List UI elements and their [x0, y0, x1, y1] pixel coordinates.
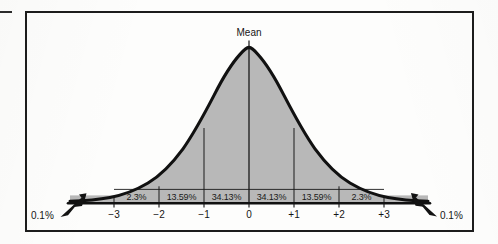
x-tick-label-plus-2: +2: [333, 210, 344, 220]
x-tick-label-minus-1: −1: [198, 210, 209, 220]
x-tick-label-zero: 0: [246, 210, 252, 220]
x-tick-label-minus-3: −3: [108, 210, 119, 220]
band-label-zero-to-plus-1: 34.13%: [257, 192, 287, 201]
x-tick-label-plus-1: +1: [288, 210, 299, 220]
band-label-plus-2-to-plus-3: 2.3%: [352, 192, 372, 201]
x-tick-label-minus-2: −2: [153, 210, 164, 220]
band-label-minus-1-to-zero: 34.13%: [212, 192, 242, 201]
figure-normal-distribution: Mean 2.3% 13.59% 34.13% 34.13% 13.59% 2.…: [0, 0, 498, 244]
band-label-minus-2-to-minus-1: 13.59%: [167, 192, 197, 201]
x-tick-label-plus-3: +3: [378, 210, 389, 220]
mean-label: Mean: [236, 28, 261, 38]
band-label-minus-3-to-minus-2: 2.3%: [127, 192, 147, 201]
right-tail-callout-label: 0.1%: [440, 211, 463, 221]
left-tail-callout-label: 0.1%: [31, 211, 54, 221]
band-label-plus-1-to-plus-2: 13.59%: [302, 192, 332, 201]
